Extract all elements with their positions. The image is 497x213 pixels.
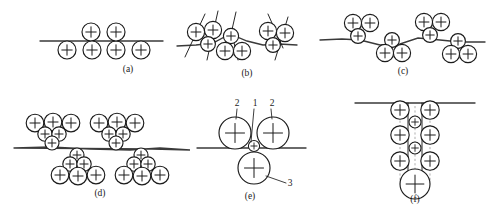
- particle-d-17: [87, 166, 105, 184]
- particle-c-10: [442, 45, 459, 62]
- particle-d-15: [51, 166, 69, 184]
- panel-a: (a): [40, 23, 163, 75]
- particle-f-0: [391, 101, 409, 119]
- callout-leader-1-1: [251, 109, 254, 142]
- particle-d-16: [69, 167, 87, 185]
- panel-e: 2123(e): [197, 98, 306, 202]
- particle-surface-diagram: (a)(b)(c)(d)2123(e)(f): [0, 0, 497, 213]
- particle-b-3: [223, 28, 238, 43]
- callout-label-2-2: 2: [270, 98, 275, 108]
- panel-label-b: (b): [241, 68, 252, 79]
- panel-f: (f): [355, 101, 475, 205]
- panel-c: (c): [320, 13, 485, 77]
- particle-c-1: [361, 14, 378, 31]
- particle-c-8: [423, 28, 438, 43]
- particle-f-4: [421, 126, 439, 144]
- particle-b-6: [259, 22, 276, 39]
- particle-a-0: [58, 41, 76, 59]
- particle-b-4: [216, 42, 233, 59]
- particle-c-2: [351, 29, 366, 44]
- particle-d-23: [151, 166, 169, 184]
- particle-c-7: [432, 13, 449, 30]
- panel-label-f: (f): [410, 194, 420, 205]
- particle-e-1: [257, 117, 289, 149]
- particle-b-8: [266, 38, 281, 53]
- panel-label-c: (c): [398, 66, 409, 77]
- particle-c-4: [376, 44, 393, 61]
- particle-a-2: [83, 41, 101, 59]
- particle-c-5: [393, 44, 410, 61]
- particle-d-11: [109, 136, 123, 150]
- particle-e-2: [248, 140, 259, 151]
- callout-leader-3-3: [266, 176, 286, 183]
- particle-a-1: [82, 23, 100, 41]
- particle-f-6: [391, 152, 409, 170]
- callout-label-1-1: 1: [253, 98, 258, 108]
- particle-b-0: [187, 23, 204, 40]
- particle-a-5: [132, 41, 150, 59]
- particle-d-5: [45, 136, 59, 150]
- panel-d: (d): [14, 113, 190, 199]
- panel-label-d: (d): [94, 188, 105, 199]
- particle-f-1: [421, 101, 439, 119]
- particle-a-3: [107, 41, 125, 59]
- callout-label-2-0: 2: [235, 98, 240, 108]
- panel-label-a: (a): [123, 64, 134, 75]
- surface-line-d: [14, 147, 190, 150]
- particle-f-5: [409, 142, 421, 154]
- particle-b-5: [233, 42, 250, 59]
- particle-f-7: [421, 152, 439, 170]
- panel-label-e: (e): [245, 191, 256, 202]
- particle-d-21: [115, 166, 133, 184]
- particle-b-2: [201, 37, 216, 52]
- particle-e-0: [219, 117, 251, 149]
- particle-e-3: [238, 152, 270, 184]
- callout-label-3-3: 3: [288, 178, 293, 188]
- particle-f-3: [391, 126, 409, 144]
- particle-c-11: [459, 45, 476, 62]
- particle-d-22: [133, 167, 151, 185]
- panel-b: (b): [177, 11, 297, 79]
- particle-b-1: [204, 21, 221, 38]
- particle-a-4: [107, 23, 125, 41]
- particle-f-2: [409, 116, 421, 128]
- particle-b-7: [276, 24, 293, 41]
- figure-container: (a)(b)(c)(d)2123(e)(f): [0, 0, 497, 213]
